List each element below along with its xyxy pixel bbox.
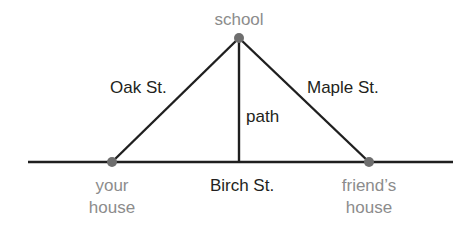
your-house-dot-icon [107, 157, 117, 167]
friends-house-label-line1: friend’s [342, 176, 397, 195]
maple-street-label: Maple St. [307, 78, 379, 97]
school-label: school [214, 10, 263, 29]
friends-house-dot-icon [364, 157, 374, 167]
friends-house-label-line2: house [346, 198, 392, 217]
birch-street-label: Birch St. [210, 176, 274, 195]
oak-street-line [112, 38, 239, 162]
path-label: path [246, 107, 279, 126]
school-dot-icon [234, 33, 244, 43]
your-house-label-line1: your [95, 176, 128, 195]
your-house-label-line2: house [89, 198, 135, 217]
maple-street-line [239, 38, 369, 162]
oak-street-label: Oak St. [110, 78, 167, 97]
route-diagram: school your house friend’s house Oak St.… [0, 0, 475, 227]
